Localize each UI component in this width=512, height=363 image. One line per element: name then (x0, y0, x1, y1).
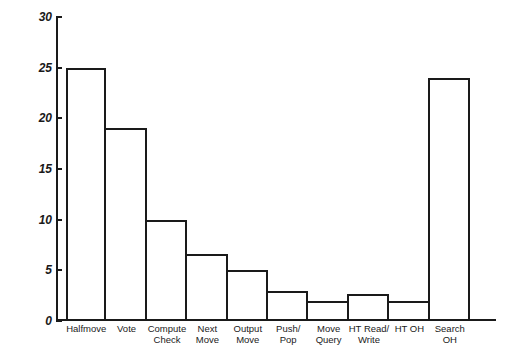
bar (428, 78, 470, 321)
bar (145, 220, 187, 321)
bar (387, 301, 429, 321)
bar (266, 291, 308, 321)
bar (185, 254, 227, 321)
bar-chart: Percent of Total Time 051015202530 Halfm… (0, 0, 512, 363)
bar (347, 294, 389, 321)
plot-area (0, 0, 512, 363)
bar (66, 68, 106, 321)
bar (104, 128, 146, 321)
bar (306, 301, 348, 321)
x-axis-category-label: Search OH (422, 324, 478, 345)
bar (226, 270, 268, 321)
